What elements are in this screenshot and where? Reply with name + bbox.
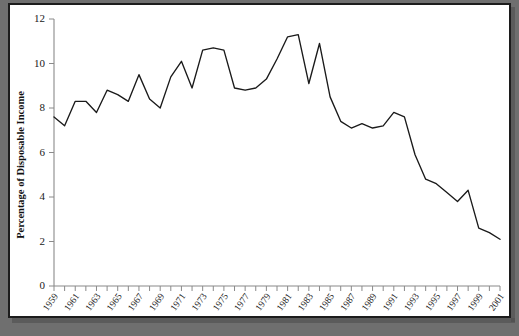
y-axis-title: Percentage of Disposable Income <box>15 91 26 239</box>
figure-shadow-right <box>511 7 515 322</box>
x-tick-label: 1997 <box>445 291 464 313</box>
chart-figure-frame: Percentage of Disposable Income 02468101… <box>8 3 511 318</box>
y-axis-ticks: 024681012 <box>34 12 54 291</box>
x-tick-label: 1981 <box>275 291 294 313</box>
x-tick-label: 1985 <box>317 291 336 313</box>
figure-shadow-bottom <box>12 318 515 323</box>
x-axis-ticks <box>54 286 500 291</box>
x-tick-label: 1975 <box>211 291 230 313</box>
y-tick-label: 8 <box>40 101 46 113</box>
y-tick-label: 10 <box>34 57 46 69</box>
x-tick-label: 1967 <box>126 291 145 313</box>
x-tick-label: 1999 <box>466 291 485 313</box>
line-chart-plot: Percentage of Disposable Income 02468101… <box>10 5 509 316</box>
x-tick-label: 2001 <box>487 291 506 313</box>
x-tick-label: 1991 <box>381 291 400 313</box>
y-tick-label: 4 <box>40 190 46 202</box>
x-tick-label: 1973 <box>190 291 209 313</box>
x-tick-label: 1961 <box>62 291 81 313</box>
x-tick-label: 1963 <box>84 291 103 313</box>
y-tick-label: 0 <box>40 279 46 291</box>
x-tick-label: 1983 <box>296 291 315 313</box>
x-tick-label: 1993 <box>402 291 421 313</box>
x-tick-label: 1987 <box>338 291 357 313</box>
x-tick-label: 1977 <box>232 291 251 313</box>
x-tick-label: 1979 <box>253 291 272 313</box>
x-tick-label: 1969 <box>147 291 166 313</box>
x-tick-label: 1965 <box>105 291 124 313</box>
data-series-line <box>54 35 500 240</box>
x-tick-label: 1989 <box>360 291 379 313</box>
x-tick-label: 1995 <box>423 291 442 313</box>
y-tick-label: 2 <box>40 235 46 247</box>
x-tick-label: 1959 <box>41 291 60 313</box>
y-tick-label: 6 <box>40 146 46 158</box>
x-axis-tick-labels: 1959196119631965196719691971197319751977… <box>41 291 506 313</box>
x-tick-label: 1971 <box>168 291 187 313</box>
y-tick-label: 12 <box>34 12 45 24</box>
